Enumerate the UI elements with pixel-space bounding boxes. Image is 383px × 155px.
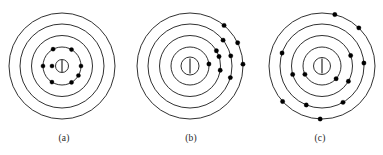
- atom-panel-c: (c): [256, 0, 383, 155]
- electron-dot: [50, 64, 54, 68]
- electron-dot: [333, 12, 337, 16]
- electron-dot: [334, 77, 338, 81]
- electron-dot: [290, 72, 294, 76]
- electron-dot: [50, 80, 54, 84]
- atom-diagram-a: [0, 0, 128, 132]
- panel-label-a: (a): [0, 131, 128, 145]
- electron-dot: [214, 49, 218, 53]
- atom-panel-a: (a): [0, 0, 128, 155]
- electron-dot: [346, 79, 350, 83]
- electron-dot: [228, 75, 232, 79]
- electron-dot: [218, 68, 222, 72]
- electron-dot: [304, 103, 308, 107]
- panel-label-b: (b): [127, 131, 255, 145]
- electron-dot: [348, 53, 352, 57]
- electron-dot: [69, 80, 73, 84]
- electron-dot: [207, 62, 211, 66]
- atom-panel-b: (b): [127, 0, 255, 155]
- electron-dot: [280, 99, 284, 103]
- electron-dot: [217, 54, 221, 58]
- atom-diagram-b: [127, 0, 255, 132]
- electron-dot: [221, 38, 225, 42]
- electron-dot: [318, 117, 322, 121]
- electron-dot: [222, 23, 226, 27]
- figure-root: (a) (b) (c): [0, 0, 383, 155]
- electron-dot: [357, 26, 361, 30]
- electron-dot: [41, 64, 45, 68]
- electron-dot: [241, 62, 245, 66]
- electron-dot: [362, 61, 366, 65]
- electron-dot: [235, 41, 239, 45]
- electron-dot: [51, 47, 55, 51]
- electron-dot: [79, 64, 83, 68]
- electron-dot: [69, 47, 73, 51]
- electron-dot: [303, 72, 307, 76]
- electron-dot: [76, 73, 80, 77]
- electron-dot: [229, 54, 233, 58]
- electron-dot: [341, 100, 345, 104]
- atom-diagram-c: [256, 0, 383, 132]
- panel-label-c: (c): [256, 131, 383, 145]
- electron-dot: [280, 51, 284, 55]
